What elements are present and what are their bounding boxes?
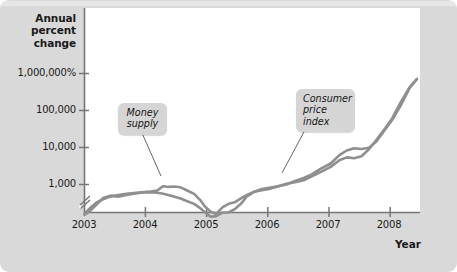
data-curves <box>85 79 417 217</box>
chart-svg <box>0 0 457 272</box>
callout-money-supply: Money supply <box>118 103 167 135</box>
callout-cpi-line-2: price <box>303 104 348 115</box>
callout-consumer-price-index: Consumer price index <box>296 89 355 132</box>
callout-cpi-line-1: Consumer <box>303 93 348 104</box>
chart-figure: Annual percent change Year 1,000,000% 10… <box>0 0 457 272</box>
leader-line-cpi <box>282 130 305 173</box>
callout-money-supply-line-1: Money <box>125 107 160 118</box>
leader-line-money-supply <box>142 133 161 176</box>
callout-money-supply-line-2: supply <box>125 118 160 129</box>
callout-leader-lines <box>142 130 305 176</box>
callout-cpi-line-3: index <box>303 116 348 127</box>
